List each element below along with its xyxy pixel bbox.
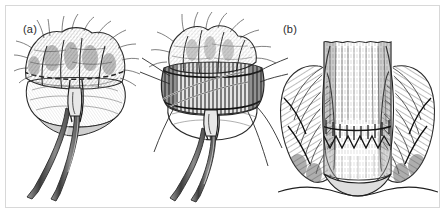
surgical-forceps-b [170, 110, 218, 202]
panel-a: (a) [10, 6, 150, 207]
figure-frame: (a) [5, 5, 440, 208]
panel-b-illustration [140, 6, 288, 207]
panel-a-illustration [10, 6, 150, 207]
panel-b: (b) [140, 6, 288, 207]
panel-c: (c) [278, 6, 438, 207]
anal-canal-c [318, 36, 398, 196]
panel-c-illustration [278, 6, 438, 207]
panel-label-a: (a) [23, 23, 37, 35]
figure-root: (a) [0, 0, 447, 221]
